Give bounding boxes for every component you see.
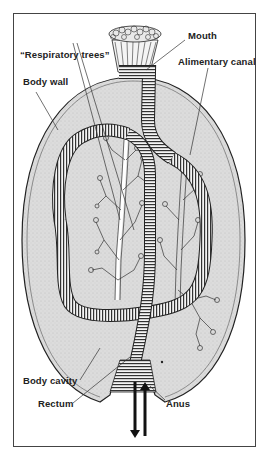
- arrow-down-icon: [130, 430, 140, 438]
- label-anus: Anus: [166, 398, 190, 409]
- sea-cucumber-diagram: [0, 0, 267, 456]
- label-rectum: Rectum: [38, 398, 73, 409]
- label-alimentary-canal: Alimentary canal: [178, 56, 256, 67]
- label-mouth: Mouth: [188, 30, 217, 41]
- label-respiratory-trees: “Respiratory trees”: [20, 49, 110, 60]
- label-body-cavity: Body cavity: [23, 375, 77, 386]
- cavity-dot: [161, 361, 163, 363]
- label-body-wall: Body wall: [23, 76, 68, 87]
